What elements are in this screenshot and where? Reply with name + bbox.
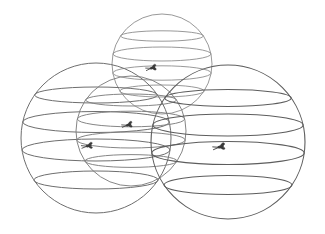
creature-right-tail bbox=[213, 146, 218, 150]
sphere-right bbox=[151, 65, 305, 219]
sphere-right-latitude-3 bbox=[164, 176, 292, 195]
sphere-top-latitude-0 bbox=[121, 31, 204, 41]
creature-top-tail bbox=[146, 67, 150, 70]
spheres-diagram bbox=[0, 0, 325, 234]
sphere-top-latitude-1 bbox=[113, 47, 211, 61]
sphere-top-latitude-2 bbox=[113, 66, 211, 80]
sphere-right-latitude-1 bbox=[153, 114, 303, 136]
sphere-right-latitude-2 bbox=[152, 142, 304, 165]
figure-canvas bbox=[0, 0, 325, 234]
spheres-layer bbox=[21, 14, 305, 219]
sphere-left-latitude-0 bbox=[35, 87, 158, 103]
creature-top bbox=[145, 64, 157, 72]
creature-right bbox=[212, 142, 225, 151]
sphere-left-latitude-2 bbox=[22, 139, 170, 161]
sphere-top bbox=[112, 14, 212, 114]
creature-middle bbox=[121, 121, 133, 129]
creature-left-tail bbox=[81, 145, 86, 148]
sphere-left-latitude-1 bbox=[23, 112, 170, 133]
creature-left bbox=[81, 142, 93, 150]
sphere-top-outline bbox=[112, 14, 212, 114]
sphere-right-latitude-0 bbox=[165, 90, 291, 107]
